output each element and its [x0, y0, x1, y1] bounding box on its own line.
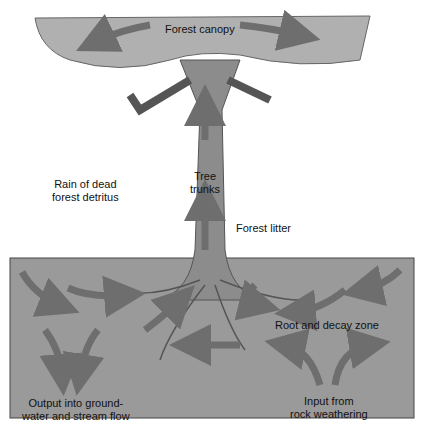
label-forest-canopy: Forest canopy: [165, 23, 235, 36]
label-forest-litter: Forest litter: [236, 222, 291, 235]
label-rain-of-detritus: Rain of deadforest detritus: [52, 178, 119, 204]
label-output: Output into ground-water and stream flow: [22, 397, 130, 423]
nutrient-cycle-illustration: [0, 0, 426, 443]
label-tree-trunks: Treetrunks: [190, 170, 220, 196]
label-root-decay-zone: Root and decay zone: [275, 319, 379, 332]
label-input: Input fromrock weathering: [290, 395, 368, 421]
